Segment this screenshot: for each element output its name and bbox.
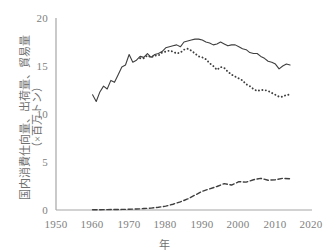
chart-figure: 20 15 10 5 0 1950 1960 1970 1980 1990 20…	[0, 0, 328, 252]
x-tick-1960: 1960	[75, 219, 109, 230]
chart-plot-area	[0, 0, 328, 252]
x-tick-2000: 2000	[221, 219, 255, 230]
x-tick-1970: 1970	[112, 219, 146, 230]
y-axis-title: 国内消費仕向量、出荷量、貿易量 （×百万トン）	[18, 22, 44, 212]
x-tick-1990: 1990	[185, 219, 219, 230]
x-tick-1950: 1950	[39, 219, 73, 230]
series-line-2	[93, 178, 290, 209]
chart-axes	[56, 18, 312, 210]
y-axis-title-line1: 国内消費仕向量、出荷量、貿易量	[19, 35, 31, 200]
x-tick-2010: 2010	[258, 219, 292, 230]
series-line-0	[93, 39, 290, 101]
x-tick-2020: 2020	[294, 219, 328, 230]
chart-series-group	[93, 39, 290, 210]
series-line-1	[140, 49, 290, 97]
x-axis-title: 年	[0, 236, 328, 252]
y-axis-title-line2: （×百万トン）	[31, 81, 43, 153]
x-tick-1980: 1980	[148, 219, 182, 230]
